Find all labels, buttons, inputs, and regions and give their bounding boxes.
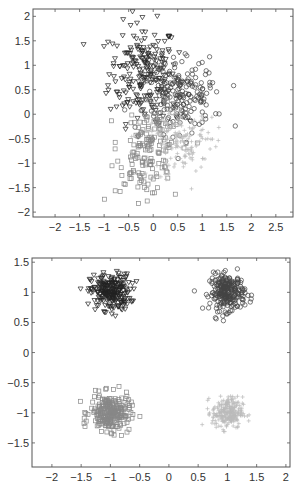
y-tick-label: 0	[23, 347, 29, 359]
y-tick-label: 0.5	[14, 316, 29, 328]
series-class-triangle	[78, 269, 139, 318]
x-tick-label: 2	[283, 471, 289, 483]
series-class-square	[79, 385, 142, 438]
y-tick-label: 1	[23, 286, 29, 298]
scatter-plot-top-canvas: −2−1.5−1−0.500.511.522.521.510.50−0.5−1−…	[0, 0, 303, 240]
y-tick-label: −0.5	[7, 377, 29, 389]
x-tick-label: −2	[46, 471, 59, 483]
y-tick-label: 1	[24, 59, 30, 71]
scatter-plot-bottom: −2−1.5−1−0.500.511.521.510.50−0.5−1−1.5	[0, 248, 303, 496]
x-tick-label: −1	[104, 471, 117, 483]
x-tick-label: −0.5	[129, 471, 151, 483]
x-tick-label: −2	[49, 221, 62, 233]
x-tick-label: −1	[98, 221, 111, 233]
y-tick-label: −1	[17, 157, 30, 169]
x-axis: −2−1.5−1−0.500.511.52	[46, 258, 289, 483]
x-tick-label: 2.5	[268, 221, 283, 233]
x-tick-label: 0.5	[170, 221, 185, 233]
x-tick-label: 0	[166, 471, 172, 483]
y-tick-label: 1.5	[15, 35, 30, 47]
y-tick-label: −2	[17, 206, 30, 218]
y-tick-label: −1.5	[7, 437, 29, 449]
axes-frame	[32, 258, 290, 467]
y-tick-label: 2	[24, 10, 30, 22]
y-tick-label: −1	[16, 407, 29, 419]
x-tick-label: 1	[199, 221, 205, 233]
data-points	[78, 267, 254, 438]
x-tick-label: 1.5	[219, 221, 234, 233]
x-tick-label: −0.5	[118, 221, 140, 233]
y-tick-label: 0	[24, 108, 30, 120]
y-tick-label: −0.5	[8, 133, 30, 145]
scatter-plot-bottom-canvas: −2−1.5−1−0.500.511.521.510.50−0.5−1−1.5	[0, 248, 303, 496]
series-class-plus	[200, 394, 251, 433]
data-points	[81, 10, 237, 238]
x-tick-label: 2	[248, 221, 254, 233]
x-tick-label: 0.5	[191, 471, 206, 483]
y-tick-label: 0.5	[15, 84, 30, 96]
y-axis: 21.510.50−0.5−1−1.5−2	[8, 10, 293, 218]
x-tick-label: 1.5	[249, 471, 264, 483]
y-tick-label: −1.5	[8, 182, 30, 194]
scatter-plot-top: −2−1.5−1−0.500.511.522.521.510.50−0.5−1−…	[0, 0, 303, 240]
y-tick-label: 1.5	[14, 256, 29, 268]
series-class-circle	[192, 267, 254, 323]
x-tick-label: 0	[150, 221, 156, 233]
x-tick-label: −1.5	[69, 221, 91, 233]
x-tick-label: −1.5	[70, 471, 92, 483]
x-tick-label: 1	[224, 471, 230, 483]
y-axis: 1.510.50−0.5−1−1.5	[7, 256, 290, 449]
